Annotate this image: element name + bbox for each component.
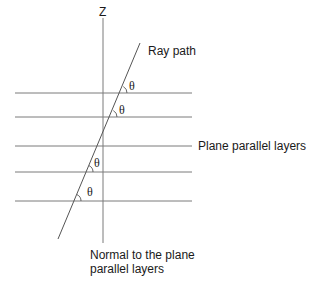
theta-label-3: θ xyxy=(94,156,100,170)
normal-label-line-2: parallel layers xyxy=(90,262,164,276)
angle-arc-3 xyxy=(89,166,93,172)
theta-label-1: θ xyxy=(129,79,135,93)
z-axis-label: Z xyxy=(99,5,106,19)
ray-path-label: Ray path xyxy=(148,44,196,58)
angle-arc-4 xyxy=(77,195,81,201)
normal-label-line-1: Normal to the plane xyxy=(90,248,195,262)
angle-arc-2 xyxy=(113,111,117,117)
theta-label-4: θ xyxy=(87,185,93,199)
ray-path-line xyxy=(58,43,140,239)
angle-arc-1 xyxy=(123,87,127,93)
theta-label-2: θ xyxy=(119,103,125,117)
layers-label: Plane parallel layers xyxy=(198,139,306,153)
ray-path-diagram: Z Ray path θ θ θ θ Plane parallel layers… xyxy=(0,0,314,296)
